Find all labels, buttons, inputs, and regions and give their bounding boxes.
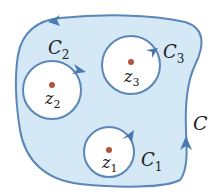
diagram-svg: C2 C3 C1 C z2 z3 z1 (0, 0, 214, 195)
point-z3 (128, 59, 134, 65)
point-z2 (49, 82, 55, 88)
contour-diagram: C2 C3 C1 C z2 z3 z1 (0, 0, 214, 195)
label-c: C (193, 112, 208, 134)
